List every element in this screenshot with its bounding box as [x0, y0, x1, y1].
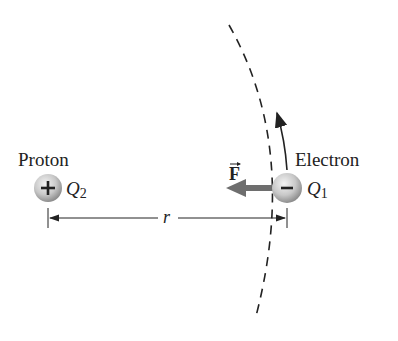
proton-charge-label: Q2	[66, 179, 87, 201]
proton-sphere	[34, 174, 62, 202]
coulomb-diagram	[0, 0, 398, 341]
electron-charge-label: Q1	[307, 179, 328, 201]
force-label: F	[229, 165, 240, 183]
proton-label: Proton	[18, 150, 69, 169]
electron-label: Electron	[295, 150, 359, 169]
electron-sphere	[272, 173, 302, 203]
distance-label: r	[163, 208, 170, 226]
velocity-arrow	[277, 113, 287, 170]
